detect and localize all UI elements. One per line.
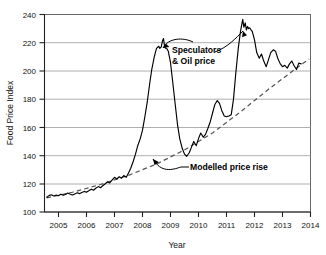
x-tick-label: 2012 — [246, 221, 264, 230]
x-tick-label: 2008 — [134, 221, 152, 230]
y-tick-label: 200 — [23, 67, 37, 76]
y-tick-label: 240 — [23, 11, 37, 20]
x-axis-title: Year — [168, 240, 185, 250]
x-tick-label: 2005 — [50, 221, 68, 230]
y-tick-label: 220 — [23, 39, 37, 48]
x-tick-label: 2007 — [106, 221, 124, 230]
annotation-speculators-line1: Speculators — [172, 45, 221, 55]
x-tick-label: 2009 — [162, 221, 180, 230]
y-axis-title: Food Price Index — [5, 80, 15, 145]
chart-figure: 240 220 200 180 160 140 120 100 2005 200… — [0, 0, 326, 255]
x-tick-label: 2013 — [274, 221, 292, 230]
y-tick-label: 180 — [23, 95, 37, 104]
y-tick-label: 160 — [23, 124, 37, 133]
food-price-index-chart: 240 220 200 180 160 140 120 100 2005 200… — [0, 0, 326, 255]
annotation-modelled-label: Modelled price rise — [190, 162, 268, 172]
x-tick-label: 2006 — [78, 221, 96, 230]
annotation-speculators-line2: & Oil price — [172, 56, 215, 66]
y-tick-label: 100 — [23, 208, 37, 217]
x-tick-label: 2011 — [218, 221, 236, 230]
y-tick-label: 120 — [23, 180, 37, 189]
x-tick-label: 2010 — [190, 221, 208, 230]
y-tick-label: 140 — [23, 152, 37, 161]
x-tick-label: 2014 — [302, 221, 320, 230]
